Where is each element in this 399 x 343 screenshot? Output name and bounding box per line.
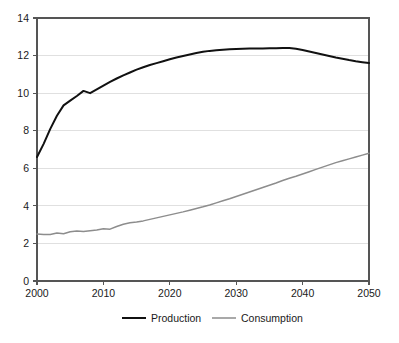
y-tick-label-14: 14	[17, 12, 29, 24]
legend-label-production: Production	[151, 312, 201, 324]
y-tick-label-10: 10	[17, 87, 29, 99]
y-tick-label-2: 2	[23, 237, 29, 249]
y-tick-label-4: 4	[23, 200, 29, 212]
x-tick-label-2010: 2010	[92, 287, 116, 299]
chart-container: 02468101214 200020102020203020402050 Pro…	[0, 0, 399, 343]
line-chart: 02468101214 200020102020203020402050 Pro…	[0, 0, 399, 343]
y-tick-label-6: 6	[23, 162, 29, 174]
x-tick-label-2040: 2040	[291, 287, 315, 299]
x-tick-label-2000: 2000	[25, 287, 49, 299]
y-tick-label-8: 8	[23, 124, 29, 136]
y-tick-label-0: 0	[23, 275, 29, 287]
x-tick-label-2020: 2020	[158, 287, 182, 299]
x-tick-label-2030: 2030	[225, 287, 249, 299]
y-tick-label-12: 12	[17, 49, 29, 61]
legend-label-consumption: Consumption	[241, 312, 303, 324]
x-tick-label-2050: 2050	[357, 287, 381, 299]
